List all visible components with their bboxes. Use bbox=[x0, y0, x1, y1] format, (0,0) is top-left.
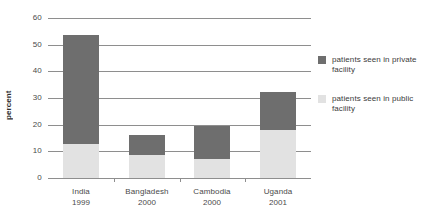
legend-label: patients seen in private facility bbox=[332, 55, 417, 74]
bar-segment-public bbox=[63, 144, 99, 178]
x-tick bbox=[180, 178, 181, 182]
bar-segment-public bbox=[194, 159, 230, 178]
bar-group bbox=[260, 18, 296, 178]
y-tick-label-50: 50 bbox=[8, 41, 42, 49]
x-axis-label-country: India bbox=[72, 187, 90, 196]
bars-layer bbox=[48, 18, 311, 178]
bar-segment-private bbox=[260, 92, 296, 130]
legend-swatch-icon bbox=[318, 56, 326, 64]
y-tick-label-0: 0 bbox=[8, 174, 42, 182]
bar-group bbox=[194, 18, 230, 178]
x-axis-label-country: Cambodia bbox=[193, 187, 230, 196]
bar-segment-private bbox=[63, 35, 99, 144]
y-axis-tick-labels: 0102030405060 bbox=[8, 18, 42, 178]
y-tick-label-10: 10 bbox=[8, 147, 42, 155]
x-axis-label: Uganda2001 bbox=[235, 186, 321, 208]
legend-item: patients seen in private facility bbox=[318, 55, 434, 75]
y-tick-label-40: 40 bbox=[8, 67, 42, 75]
x-axis-label-year: 2001 bbox=[235, 197, 321, 208]
x-axis-label-country: Uganda bbox=[264, 187, 293, 196]
bar-segment-private bbox=[194, 126, 230, 159]
y-tick-label-30: 30 bbox=[8, 94, 42, 102]
legend-swatch-icon bbox=[318, 95, 326, 103]
legend-label: patients seen in public facility bbox=[332, 94, 413, 113]
bar-group bbox=[129, 18, 165, 178]
bar-group bbox=[63, 18, 99, 178]
x-tick bbox=[114, 178, 115, 182]
stacked-bar-chart: percent 0102030405060 India1999Banglades… bbox=[0, 0, 436, 222]
x-tick bbox=[245, 178, 246, 182]
legend-item: patients seen in public facility bbox=[318, 94, 434, 114]
bar-segment-public bbox=[260, 130, 296, 178]
y-tick-label-20: 20 bbox=[8, 121, 42, 129]
x-axis-label-country: Bangladesh bbox=[125, 187, 168, 196]
bar-segment-private bbox=[129, 135, 165, 155]
y-tick-label-60: 60 bbox=[8, 14, 42, 22]
chart-legend: patients seen in private facilitypatient… bbox=[318, 55, 434, 133]
bar-segment-public bbox=[129, 155, 165, 178]
